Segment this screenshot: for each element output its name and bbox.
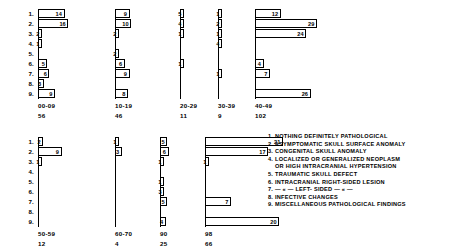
bar-track: 4 bbox=[160, 217, 190, 227]
bar-track bbox=[38, 177, 93, 187]
bar: 14 bbox=[38, 9, 65, 18]
bar-value-label: 10 bbox=[122, 20, 128, 29]
row-label-column-top: 1.2.3.4.5.6.7.8.9. bbox=[14, 9, 36, 99]
bar-track bbox=[180, 49, 202, 59]
age-group-total: 25 bbox=[160, 240, 167, 248]
row-index-label: 1. bbox=[14, 139, 34, 145]
bar: 3 bbox=[160, 187, 164, 196]
bar-value-label: 20 bbox=[270, 218, 276, 227]
bar-track: 1 bbox=[218, 9, 240, 19]
bar: 3 bbox=[115, 147, 122, 156]
age-group-label: 60-70 bbox=[115, 230, 132, 238]
bar-track: 24 bbox=[255, 29, 317, 39]
bar-value-label: 1 bbox=[203, 158, 206, 167]
bar-value-label: 2 bbox=[113, 30, 116, 39]
bar-track bbox=[38, 49, 93, 59]
bar: 1 bbox=[180, 29, 184, 38]
bar-value-label: 5 bbox=[178, 10, 181, 19]
bar-value-label: 5 bbox=[42, 60, 45, 69]
bar-track: 1 bbox=[180, 59, 202, 69]
bar: 20 bbox=[205, 217, 279, 226]
age-group-total: 66 bbox=[205, 240, 212, 248]
bar: 6 bbox=[38, 69, 49, 78]
bar-track: 26 bbox=[255, 89, 317, 99]
bar: 26 bbox=[255, 89, 311, 98]
row-index-label: 3. bbox=[14, 31, 34, 37]
bar-track bbox=[38, 197, 93, 207]
bar-track: 4 bbox=[180, 19, 202, 29]
age-group-panel: 1214130-399 bbox=[218, 9, 240, 121]
bar-value-label: 8 bbox=[122, 90, 125, 99]
legend-item: 7. — « — LEFT- SIDED — « — bbox=[268, 186, 453, 194]
bar-track bbox=[115, 39, 162, 49]
row-index-label: 4. bbox=[14, 169, 34, 175]
bar-track: 5 bbox=[160, 197, 190, 207]
bar-track bbox=[38, 187, 93, 197]
row-index-label: 8. bbox=[14, 209, 34, 215]
bar: 7 bbox=[205, 197, 231, 206]
bar-track: 4 bbox=[218, 39, 240, 49]
bar: 1 bbox=[180, 59, 184, 68]
bar-track bbox=[160, 207, 190, 217]
bar-value-label: 1 bbox=[36, 40, 39, 49]
row-index-label: 4. bbox=[14, 41, 34, 47]
bar-value-label: 1 bbox=[113, 138, 116, 147]
age-group-panel: 9102269810-1946 bbox=[115, 9, 162, 121]
row-index-label: 7. bbox=[14, 71, 34, 77]
bar-track: 14 bbox=[38, 9, 93, 19]
bar-value-label: 7 bbox=[264, 70, 267, 79]
age-group-panel: 122924472640-49102 bbox=[255, 9, 317, 121]
bar-track: 29 bbox=[255, 19, 317, 29]
bar: 24 bbox=[255, 29, 306, 38]
bar-value-label: 1 bbox=[158, 158, 161, 167]
row-index-label: 2. bbox=[14, 149, 34, 155]
bar: 3 bbox=[38, 79, 44, 88]
bar: 2 bbox=[218, 19, 222, 28]
bar: 1 bbox=[115, 137, 119, 146]
bar-value-label: 24 bbox=[297, 30, 303, 39]
bar-track: 3 bbox=[115, 147, 162, 157]
bar: 2 bbox=[38, 29, 42, 38]
legend-item: 4. LOCALIZED OR GENERALIZED NEOPLASM bbox=[268, 156, 453, 164]
age-group-total: 46 bbox=[115, 112, 122, 120]
row-label-column-bottom: 1.2.3.4.5.6.7.8.9. bbox=[14, 137, 36, 227]
row-index-label: 8. bbox=[14, 81, 34, 87]
bar-track bbox=[180, 69, 202, 79]
bar: 1 bbox=[218, 9, 222, 18]
bar-value-label: 12 bbox=[272, 10, 278, 19]
chart-band-top: 1.2.3.4.5.6.7.8.9. 141621563900-09569102… bbox=[0, 0, 453, 124]
row-index-label: 6. bbox=[14, 189, 34, 195]
bar-track: 4 bbox=[255, 59, 317, 69]
row-index-label: 5. bbox=[14, 179, 34, 185]
bar-value-label: 9 bbox=[56, 148, 59, 157]
bar-value-label: 4 bbox=[160, 218, 163, 227]
bar-track: 9 bbox=[38, 89, 93, 99]
bar-track bbox=[218, 59, 240, 69]
row-index-label: 9. bbox=[14, 91, 34, 97]
bar-value-label: 17 bbox=[259, 148, 265, 157]
age-group-label: 50-59 bbox=[38, 230, 55, 238]
bar-value-label: 6 bbox=[119, 60, 122, 69]
bar: 1 bbox=[38, 39, 42, 48]
age-group-label: 00-09 bbox=[38, 102, 55, 110]
bar-value-label: 2 bbox=[216, 20, 219, 29]
bar: 6 bbox=[115, 59, 125, 68]
legend-item: 2. ASYMPTOMATIC SKULL SURFACE ANOMALY bbox=[268, 141, 453, 149]
bar-track: 12 bbox=[255, 9, 317, 19]
bar-value-label: 26 bbox=[302, 90, 308, 99]
age-group-label: 10-19 bbox=[115, 102, 132, 110]
legend-item: 8. INFECTIVE CHANGES bbox=[268, 194, 453, 202]
bar-track: 5 bbox=[180, 9, 202, 19]
legend-item: 5. TRAUMATIC SKULL DEFECT bbox=[268, 171, 453, 179]
bar-track: 2 bbox=[115, 49, 162, 59]
bar: 12 bbox=[255, 9, 281, 18]
bar-value-label: 9 bbox=[124, 70, 127, 79]
bar-track: 1 bbox=[160, 177, 190, 187]
row-index-label: 9. bbox=[14, 219, 34, 225]
bar-value-label: 9 bbox=[124, 10, 127, 19]
bar-value-label: 6 bbox=[163, 148, 166, 157]
bar: 2 bbox=[38, 137, 43, 146]
bar-track bbox=[115, 79, 162, 89]
bar-track bbox=[180, 39, 202, 49]
bar-track bbox=[255, 49, 317, 59]
